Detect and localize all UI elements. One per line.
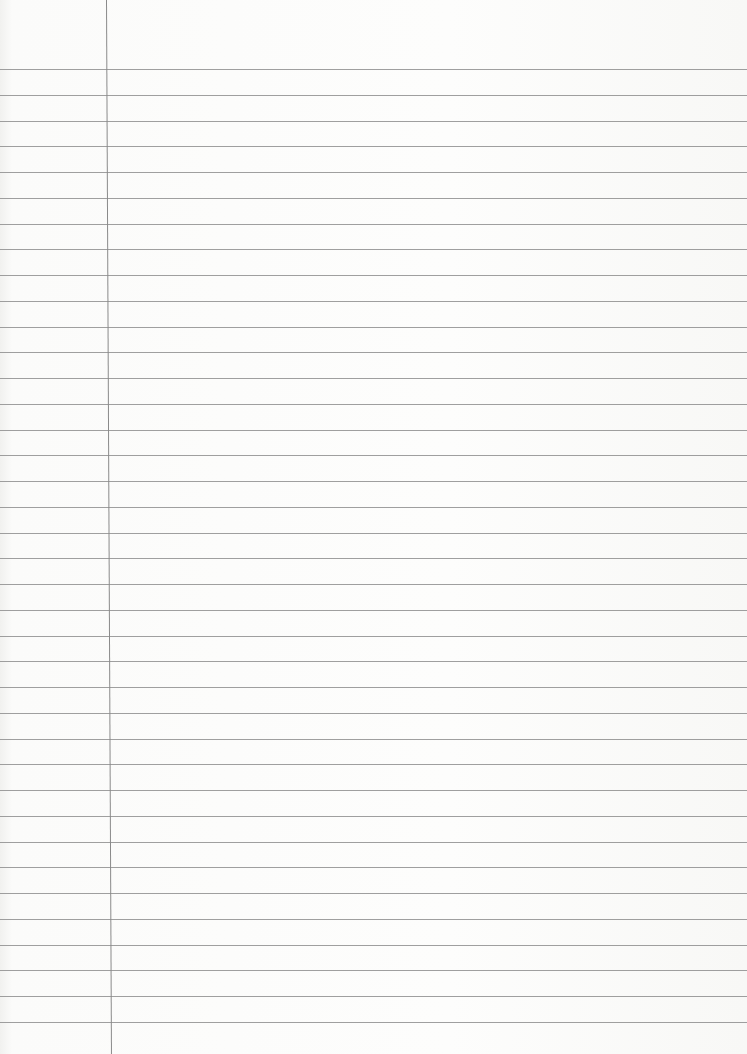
- ruled-line: [0, 430, 747, 431]
- ruled-line: [0, 996, 747, 997]
- ruled-line: [0, 739, 747, 740]
- ruled-line: [0, 867, 747, 868]
- ruled-line: [0, 893, 747, 894]
- ruled-line: [0, 533, 747, 534]
- ruled-line: [0, 842, 747, 843]
- ruled-line: [0, 95, 747, 96]
- ruled-line: [0, 198, 747, 199]
- ruled-line: [0, 481, 747, 482]
- ruled-line: [0, 69, 747, 70]
- ruled-line: [0, 816, 747, 817]
- ruled-line: [0, 352, 747, 353]
- margin-line: [106, 0, 112, 1054]
- ruled-line: [0, 945, 747, 946]
- ruled-line: [0, 687, 747, 688]
- ruled-line: [0, 172, 747, 173]
- ruled-line: [0, 970, 747, 971]
- ruled-line: [0, 790, 747, 791]
- ruled-line: [0, 713, 747, 714]
- ruled-line: [0, 301, 747, 302]
- ruled-line: [0, 610, 747, 611]
- ruled-line: [0, 661, 747, 662]
- ruled-line: [0, 507, 747, 508]
- ruled-line: [0, 404, 747, 405]
- ruled-line: [0, 275, 747, 276]
- ruled-line: [0, 224, 747, 225]
- ruled-line: [0, 764, 747, 765]
- ruled-line: [0, 327, 747, 328]
- ruled-line: [0, 584, 747, 585]
- ruled-line: [0, 455, 747, 456]
- ruled-line: [0, 636, 747, 637]
- ruled-line: [0, 558, 747, 559]
- ruled-line: [0, 121, 747, 122]
- ruled-line: [0, 1022, 747, 1023]
- ruled-line: [0, 146, 747, 147]
- lined-paper: [0, 0, 747, 1054]
- ruled-line: [0, 919, 747, 920]
- ruled-line: [0, 249, 747, 250]
- ruled-line: [0, 378, 747, 379]
